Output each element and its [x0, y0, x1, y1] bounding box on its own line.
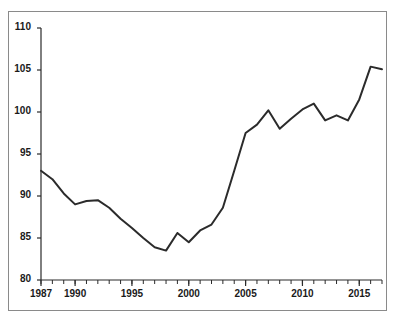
data-series-line	[41, 67, 382, 251]
line-chart-plot	[0, 0, 396, 323]
x-tick-label: 2005	[226, 288, 266, 299]
y-tick-label: 100	[7, 105, 31, 116]
y-tick-label: 85	[7, 231, 31, 242]
y-tick-label: 105	[7, 63, 31, 74]
x-tick-label: 2000	[169, 288, 209, 299]
x-tick-label: 1990	[55, 288, 95, 299]
y-tick-label: 90	[7, 189, 31, 200]
y-tick-label: 110	[7, 21, 31, 32]
x-tick-label: 2010	[282, 288, 322, 299]
x-tick-label: 1995	[112, 288, 152, 299]
y-tick-label: 95	[7, 147, 31, 158]
axis-lines	[41, 28, 382, 280]
y-tick-label: 80	[7, 273, 31, 284]
x-tick-label: 2015	[339, 288, 379, 299]
chart-figure: 80859095100105110 1987199019952000200520…	[0, 0, 396, 323]
